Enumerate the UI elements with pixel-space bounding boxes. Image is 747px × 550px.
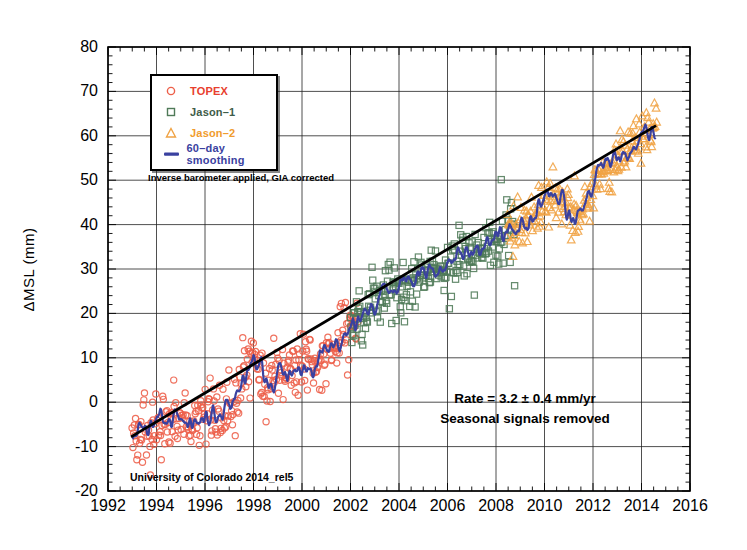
sea-level-chart: ΔMSL (mm) 199219941996199820002002200420… <box>0 0 747 550</box>
y-tick-label: -20 <box>40 481 98 501</box>
legend-item: 60–day smoothing <box>162 144 274 164</box>
circle-marker-icon <box>162 84 190 98</box>
legend-item-label: Jason–2 <box>190 127 235 139</box>
y-tick-label: 80 <box>40 37 98 57</box>
y-tick-label: 0 <box>40 392 98 412</box>
y-tick-label: 40 <box>40 215 98 235</box>
source-credit: University of Colorado 2014_rel5 <box>130 471 293 483</box>
y-tick-label: 60 <box>40 126 98 146</box>
series-circle <box>129 299 361 478</box>
series-square <box>347 177 517 348</box>
legend: TOPEXJason–1Jason–260–day smoothing <box>150 74 278 171</box>
seasonal-line: Seasonal signals removed <box>400 409 650 429</box>
rate-line: Rate = 3.2 ± 0.4 mm/yr <box>400 389 650 409</box>
legend-item-label: Jason–1 <box>190 106 235 118</box>
y-tick-label: 50 <box>40 170 98 190</box>
y-tick-label: -10 <box>40 437 98 457</box>
line-marker-icon <box>162 147 187 161</box>
legend-item-label: 60–day smoothing <box>187 142 274 166</box>
y-tick-label: 70 <box>40 81 98 101</box>
legend-item: Jason–1 <box>162 102 274 122</box>
y-axis-title-text: ΔMSL (mm) <box>21 227 38 311</box>
x-tick-label: 2016 <box>662 496 718 516</box>
legend-item: Jason–2 <box>162 123 274 143</box>
series-triangle <box>503 99 660 259</box>
y-axis-title: ΔMSL (mm) <box>16 47 42 491</box>
y-tick-label: 10 <box>40 348 98 368</box>
y-tick-label: 20 <box>40 303 98 323</box>
legend-note: Inverse barometer applied, GIA corrected <box>148 172 334 183</box>
triangle-marker-icon <box>162 126 190 140</box>
legend-item: TOPEX <box>162 81 274 101</box>
chart-canvas <box>0 0 747 550</box>
legend-item-label: TOPEX <box>190 85 228 97</box>
square-marker-icon <box>162 105 190 119</box>
rate-annotation: Rate = 3.2 ± 0.4 mm/yr Seasonal signals … <box>400 389 650 429</box>
y-tick-label: 30 <box>40 259 98 279</box>
